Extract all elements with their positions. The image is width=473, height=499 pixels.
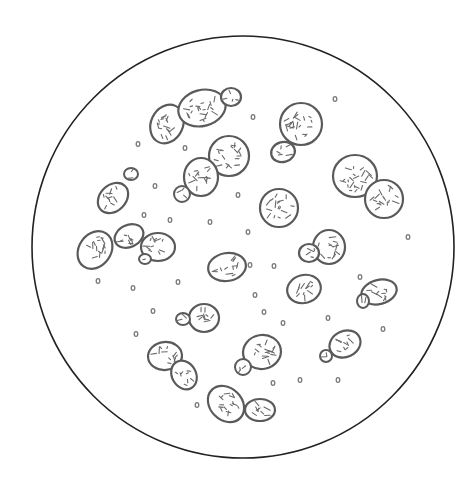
speck: [272, 264, 276, 269]
speck: [136, 142, 140, 147]
yeast-cell: [260, 189, 298, 227]
speck: [281, 321, 285, 326]
yeast-cell: [357, 294, 369, 308]
yeast-cell: [189, 304, 219, 332]
speck: [168, 218, 172, 223]
yeast-cell: [206, 250, 248, 284]
yeast-cell: [176, 313, 190, 325]
yeast-cell: [235, 359, 251, 375]
yeast-cell: [245, 399, 275, 421]
yeast-cell: [320, 350, 332, 362]
speck: [262, 310, 266, 315]
yeast-cell: [70, 224, 119, 275]
speck: [246, 230, 250, 235]
speck: [333, 97, 337, 102]
speck: [153, 184, 157, 189]
speck: [236, 193, 240, 198]
speck: [183, 146, 187, 151]
yeast-cell: [201, 379, 252, 430]
yeast-cell: [174, 186, 190, 202]
yeast-cell: [92, 177, 134, 219]
yeast-cell: [139, 254, 151, 264]
speck: [251, 115, 255, 120]
microscope-field-drawing: [0, 0, 473, 499]
yeast-cell: [124, 168, 138, 180]
speck: [271, 381, 275, 386]
speck: [151, 309, 155, 314]
speck: [406, 235, 410, 240]
speck: [176, 280, 180, 285]
speck: [253, 293, 257, 298]
speck: [381, 327, 385, 332]
yeast-cell: [284, 271, 324, 307]
speck: [134, 332, 138, 337]
speck: [195, 403, 199, 408]
speck: [336, 378, 340, 383]
speck: [298, 378, 302, 383]
microscope-figure: Yeast cells under microscope: [0, 0, 473, 499]
yeast-cell: [280, 103, 322, 145]
speck: [326, 316, 330, 321]
yeast-cell-layer: [70, 84, 403, 429]
yeast-cell: [299, 244, 319, 262]
speck: [358, 275, 362, 280]
yeast-cell: [365, 180, 403, 218]
speck: [142, 213, 146, 218]
speck: [208, 220, 212, 225]
speck: [248, 263, 252, 268]
speck: [96, 279, 100, 284]
speck: [131, 286, 135, 291]
yeast-cell: [221, 88, 241, 106]
